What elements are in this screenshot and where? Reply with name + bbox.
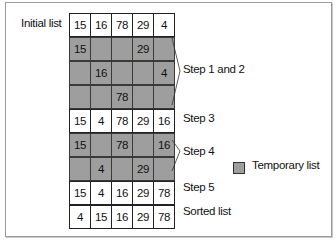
bracket-step-4 [172, 140, 180, 171]
label-step-1-and-2: Step 1 and 2 [183, 63, 245, 75]
legend-swatch [233, 162, 245, 174]
bracket-step-1-and-2 [172, 38, 180, 105]
legend-label: Temporary list [252, 159, 319, 171]
brackets [0, 0, 336, 241]
label-step-5: Step 5 [183, 181, 214, 193]
label-step-4: Step 4 [183, 145, 214, 157]
label-sorted-list: Sorted list [183, 205, 231, 217]
label-step-3: Step 3 [183, 112, 214, 124]
